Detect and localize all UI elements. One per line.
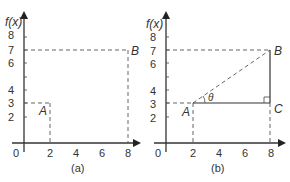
panel-b: 8 7 6 4 3 2 f(x) 0 2 4 6 8 θ A B C (b) — [146, 11, 286, 174]
x-tick-label: 0 — [155, 147, 161, 159]
x-tick-label: 2 — [190, 147, 196, 159]
y-tick-label: 6 — [150, 58, 156, 70]
caption-b: (b) — [211, 162, 224, 174]
figure-canvas: 8 7 6 4 3 2 f(x) 0 2 4 6 8 A B (a) — [0, 0, 290, 182]
x-tick-label: 0 — [13, 147, 19, 159]
point-label-C: C — [274, 102, 283, 116]
y-axis-label: f(x) — [146, 17, 163, 31]
y-tick-label: 2 — [8, 111, 14, 123]
y-tick-label: 3 — [150, 98, 156, 110]
x-tick-label: 4 — [216, 147, 222, 159]
x-tick-label: 6 — [242, 147, 248, 159]
x-tick-label: 6 — [99, 147, 105, 159]
y-tick-label: 2 — [150, 112, 156, 124]
x-tick-label: 8 — [268, 147, 274, 159]
x-tick-label: 8 — [125, 147, 131, 159]
caption-a: (a) — [71, 162, 84, 174]
angle-label-theta: θ — [208, 92, 214, 103]
y-tick-label: 8 — [8, 29, 14, 41]
y-tick-label: 8 — [150, 31, 156, 43]
y-tick-label: 7 — [150, 45, 156, 57]
right-angle-marker-icon — [264, 97, 270, 103]
angle-arc-icon — [203, 96, 205, 103]
y-axis-label: f(x) — [5, 15, 22, 29]
point-label-A: A — [181, 105, 190, 119]
y-tick-label: 6 — [8, 57, 14, 69]
point-label-B: B — [274, 44, 282, 58]
x-axis-arrow-icon — [133, 139, 141, 147]
y-tick-label: 3 — [8, 97, 14, 109]
y-tick-label: 4 — [8, 84, 14, 96]
segment-AB-hypotenuse — [193, 50, 270, 103]
x-tick-label: 4 — [73, 147, 79, 159]
point-label-A: A — [38, 104, 47, 118]
y-tick-label: 4 — [150, 85, 156, 97]
point-label-B: B — [131, 44, 139, 58]
y-tick-label: 7 — [8, 44, 14, 56]
x-tick-label: 2 — [47, 147, 53, 159]
x-axis-arrow-icon — [278, 139, 286, 147]
panel-a: 8 7 6 4 3 2 f(x) 0 2 4 6 8 A B (a) — [5, 11, 141, 174]
